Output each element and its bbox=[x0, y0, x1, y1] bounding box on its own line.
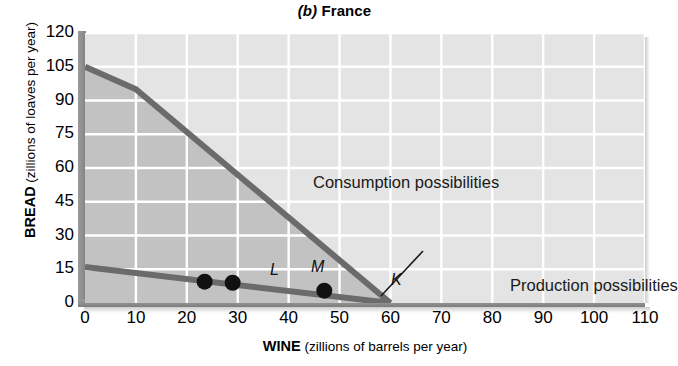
y-axis-tick-label: 30 bbox=[2, 225, 74, 245]
x-axis-title-bold: WINE bbox=[263, 338, 301, 354]
page-title: (b) France bbox=[0, 2, 669, 19]
data-point-m bbox=[225, 275, 241, 291]
panel-letter: (b) bbox=[298, 2, 317, 19]
y-axis-title-bold: BREAD bbox=[22, 186, 38, 238]
plot-shadow-bottom bbox=[84, 307, 650, 313]
production-possibilities-label: Production possibilities bbox=[510, 276, 678, 295]
x-axis-title: WINE (zillions of barrels per year) bbox=[85, 338, 645, 354]
y-axis-tick-label: 120 bbox=[2, 22, 74, 42]
production-label-leader-line bbox=[381, 251, 423, 296]
plot-area: Consumption possibilities Production pos… bbox=[85, 33, 645, 303]
consumption-possibilities-label: Consumption possibilities bbox=[313, 173, 499, 192]
plot-svg bbox=[85, 33, 645, 303]
y-axis-tick-label: 15 bbox=[2, 258, 74, 278]
panel-name: France bbox=[321, 2, 371, 19]
data-point-k bbox=[316, 283, 332, 299]
y-axis-title: BREAD (zillions of loaves per year) bbox=[22, 0, 38, 265]
data-point-l bbox=[197, 274, 213, 290]
point-label-m: M bbox=[311, 258, 324, 276]
y-axis-tick-label: 60 bbox=[2, 157, 74, 177]
point-label-l: L bbox=[270, 261, 279, 279]
y-axis-tick-label: 90 bbox=[2, 90, 74, 110]
y-axis-tick-label: 45 bbox=[2, 191, 74, 211]
plot-shadow-right bbox=[645, 37, 650, 303]
x-axis-title-rest: (zillions of barrels per year) bbox=[304, 339, 467, 354]
y-axis-tick-label: 105 bbox=[2, 56, 74, 76]
y-axis-tick-label: 75 bbox=[2, 123, 74, 143]
y-axis-title-rest: (zillions of loaves per year) bbox=[23, 22, 38, 183]
point-label-k: K bbox=[391, 271, 402, 289]
